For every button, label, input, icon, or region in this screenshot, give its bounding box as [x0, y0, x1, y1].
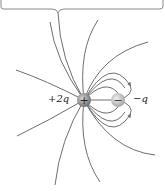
- svg-text:+: +: [79, 94, 88, 107]
- top-frame: [1, 0, 163, 13]
- negative-charge-label: −q: [133, 93, 148, 104]
- svg-text:−: −: [113, 94, 122, 107]
- charge-negative: −: [111, 93, 125, 107]
- charge-positive: +: [77, 93, 91, 107]
- field-line-diagram: + − +2q −q: [0, 0, 165, 191]
- positive-charge-label: +2q: [48, 93, 69, 104]
